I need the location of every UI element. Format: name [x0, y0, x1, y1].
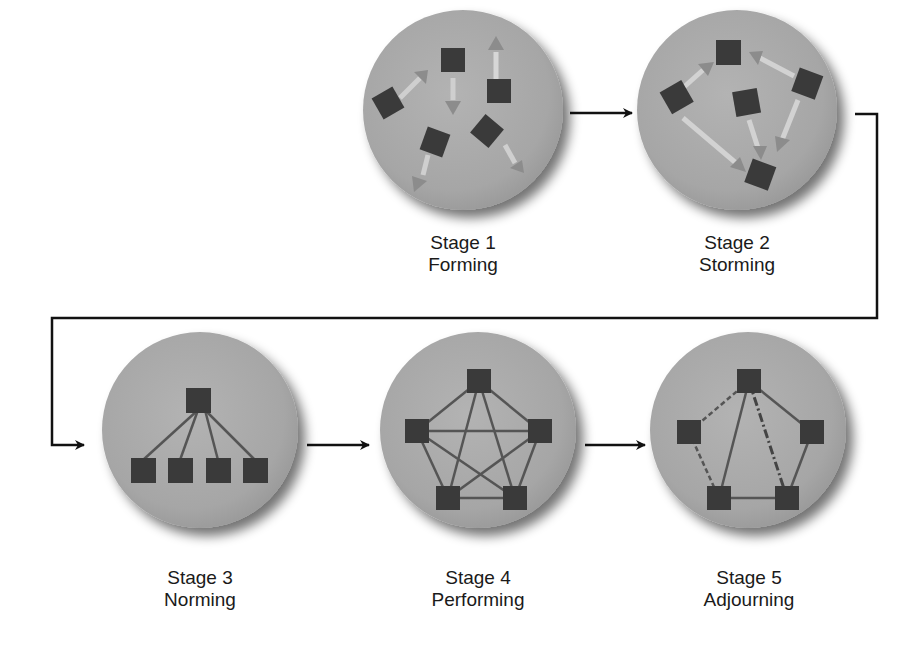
stage-2-name: Storming [637, 254, 837, 276]
stage-5-number: Stage 5 [649, 567, 849, 589]
stage-2-storming-illustration [637, 10, 837, 210]
stage-4-number: Stage 4 [378, 567, 578, 589]
stage-1-label: Stage 1 Forming [363, 232, 563, 276]
stage-5-label: Stage 5 Adjourning [649, 567, 849, 611]
stage-3-name: Norming [100, 589, 300, 611]
stage-3-label: Stage 3 Norming [100, 567, 300, 611]
stage-5-adjourning-illustration [650, 332, 846, 528]
stage-3-number: Stage 3 [100, 567, 300, 589]
stage-4-label: Stage 4 Performing [378, 567, 578, 611]
stage-2-number: Stage 2 [637, 232, 837, 254]
group-development-diagram [0, 0, 918, 645]
stage-2-label: Stage 2 Storming [637, 232, 837, 276]
stage-1-forming-illustration [363, 10, 563, 210]
leader-node [186, 388, 211, 413]
stage-1-number: Stage 1 [363, 232, 563, 254]
stage-4-performing-illustration [380, 332, 576, 528]
stage-3-norming-illustration [102, 332, 298, 528]
stage-5-name: Adjourning [649, 589, 849, 611]
stage-1-name: Forming [363, 254, 563, 276]
stage-4-name: Performing [378, 589, 578, 611]
